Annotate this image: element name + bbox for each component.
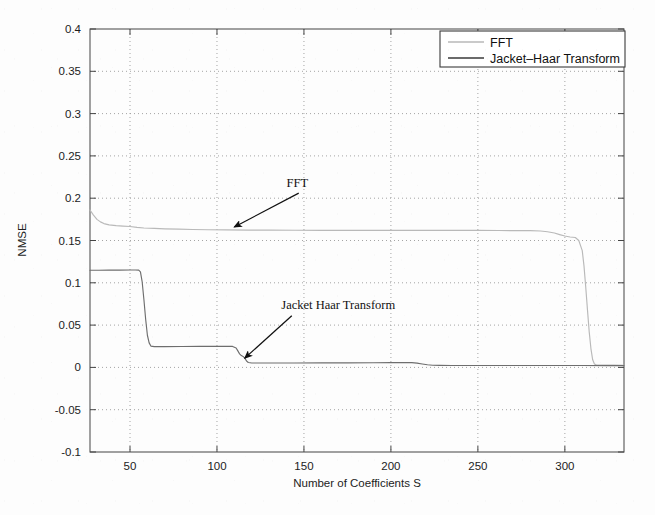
series-line-fft: [90, 210, 624, 365]
chart-annotations: FFTJacket Haar Transform: [234, 176, 395, 358]
x-tick-label: 300: [555, 460, 574, 472]
x-tick-label: 250: [468, 460, 487, 472]
annotation-label-1: Jacket Haar Transform: [281, 298, 395, 312]
x-tick-labels: 50100150200250300: [124, 460, 575, 472]
y-tick-label: 0.1: [65, 277, 81, 289]
y-tick-labels: -0.1-0.0500.050.10.150.20.250.30.350.4: [55, 23, 82, 458]
x-tick-label: 150: [294, 460, 313, 472]
y-tick-label: 0.15: [59, 235, 81, 247]
figure-container: -0.1-0.0500.050.10.150.20.250.30.350.4 5…: [0, 0, 655, 515]
y-axis-title: NMSE: [16, 223, 28, 257]
x-axis-title: Number of Coefficients S: [293, 477, 421, 489]
y-tick-label: 0.35: [59, 65, 81, 77]
legend-label-1: Jacket–Haar Transform: [490, 52, 620, 66]
legend-label-0: FFT: [490, 36, 513, 50]
y-tick-label: 0.2: [65, 192, 81, 204]
grid-lines: [90, 29, 624, 452]
y-tick-label: 0.25: [59, 150, 81, 162]
y-tick-label: -0.1: [61, 446, 81, 458]
y-tick-label: 0.4: [65, 23, 82, 35]
annotation-label-0: FFT: [287, 176, 309, 190]
annotation-arrow-1: [245, 316, 292, 358]
y-tick-label: 0.05: [59, 319, 81, 331]
x-tick-label: 100: [207, 460, 226, 472]
nmse-vs-coefficients-chart: -0.1-0.0500.050.10.150.20.250.30.350.4 5…: [0, 0, 655, 515]
x-tick-label: 50: [124, 460, 137, 472]
series-line-jacket-haar-transform: [90, 270, 624, 366]
chart-legend[interactable]: FFTJacket–Haar Transform: [440, 31, 625, 67]
data-series: [90, 210, 624, 366]
y-tick-label: 0: [75, 361, 81, 373]
y-tick-label: -0.05: [55, 404, 81, 416]
x-tick-label: 200: [381, 460, 400, 472]
y-tick-label: 0.3: [65, 108, 81, 120]
